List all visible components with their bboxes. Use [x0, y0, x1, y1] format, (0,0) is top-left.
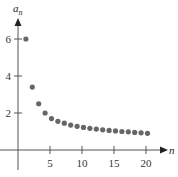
data-point: [49, 116, 54, 121]
y-tick-label: 2: [6, 107, 12, 119]
data-points: [23, 36, 150, 136]
data-point: [107, 128, 112, 133]
data-point: [55, 119, 60, 124]
x-axis-arrow-icon: [160, 147, 168, 154]
data-point: [62, 121, 67, 126]
sequence-scatter-chart: 5101520 246 n an: [0, 0, 178, 177]
data-point: [68, 122, 73, 127]
y-ticks: 246: [6, 33, 23, 119]
data-point: [36, 101, 41, 106]
data-point: [145, 131, 150, 136]
data-point: [81, 125, 86, 130]
x-axis-label: n: [169, 144, 175, 156]
data-point: [75, 124, 80, 129]
data-point: [132, 130, 137, 135]
data-point: [139, 130, 144, 135]
data-point: [113, 128, 118, 133]
x-tick-label: 5: [47, 157, 53, 169]
data-point: [87, 126, 92, 131]
data-point: [43, 110, 48, 115]
x-ticks: 5101520: [47, 146, 152, 169]
x-tick-label: 10: [77, 157, 89, 169]
y-tick-label: 4: [6, 70, 12, 82]
data-point: [23, 36, 28, 41]
y-axis-label: an: [13, 2, 23, 17]
x-tick-label: 15: [109, 157, 121, 169]
y-tick-label: 6: [6, 33, 12, 45]
data-point: [94, 126, 99, 131]
data-point: [126, 129, 131, 134]
y-axis-arrow-icon: [15, 18, 22, 26]
data-point: [100, 127, 105, 132]
data-point: [30, 85, 35, 90]
x-tick-label: 20: [141, 157, 153, 169]
y-axis-label-sub: n: [19, 8, 23, 17]
data-point: [119, 129, 124, 134]
